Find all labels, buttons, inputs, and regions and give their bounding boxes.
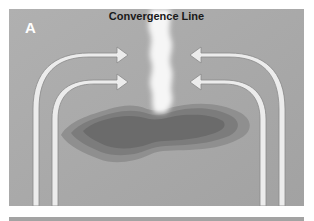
diagram-panel-a: A Convergence Line <box>9 9 304 206</box>
diagram-title: Convergence Line <box>9 10 304 22</box>
convergence-diagram <box>9 9 304 206</box>
next-panel-edge <box>9 217 304 221</box>
